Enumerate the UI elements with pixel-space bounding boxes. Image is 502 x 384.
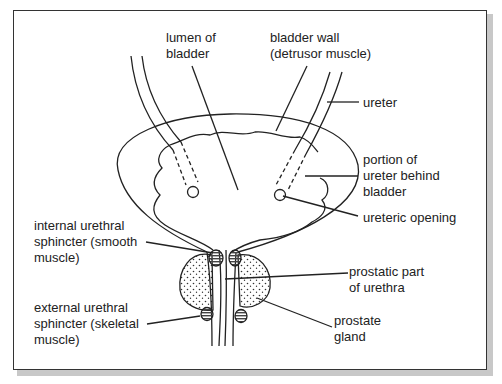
right-ureteric-opening xyxy=(275,190,286,201)
label-prostate-gland: prostate gland xyxy=(334,313,381,345)
right-ureter-inner xyxy=(306,72,342,154)
label-ureter: ureter xyxy=(363,95,397,111)
internal-sphincter-right xyxy=(229,250,241,266)
label-lumen-of-bladder: lumen of bladder xyxy=(166,30,216,62)
right-ureter-outer xyxy=(295,72,330,150)
label-portion-of-ureter-behind-bladder: portion of ureter behind bladder xyxy=(363,152,440,200)
label-external-urethral-sphincter: external urethral sphincter (skeletal mu… xyxy=(34,300,139,348)
label-ureteric-opening: ureteric opening xyxy=(363,210,456,226)
external-sphincter-right xyxy=(235,310,247,323)
label-bladder-wall: bladder wall (detrusor muscle) xyxy=(270,30,371,62)
prostate-right-lobe xyxy=(238,255,270,307)
external-sphincter-left xyxy=(201,308,213,321)
left-ureteric-opening xyxy=(188,187,199,198)
bladder-outer-wall xyxy=(117,114,358,252)
left-ureter-outer xyxy=(131,56,173,150)
label-prostatic-urethra: prostatic part of urethra xyxy=(349,264,424,296)
urethra-right-inner xyxy=(225,250,226,346)
label-internal-urethral-sphincter: internal urethral sphincter (smooth musc… xyxy=(34,218,137,266)
bladder-lumen-wall xyxy=(154,132,328,252)
